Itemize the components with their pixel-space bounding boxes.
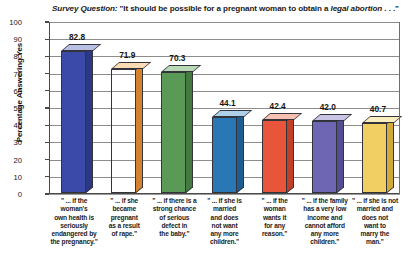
y-tick-label: 40 — [0, 121, 22, 130]
x-label-line: " ... if she is not — [350, 197, 400, 205]
bar-side-face — [86, 45, 93, 193]
x-label-line: reason." — [250, 230, 300, 238]
bar-top-face — [161, 65, 201, 72]
x-axis-category-label: " ... if there is astrong chanceof serio… — [149, 197, 199, 238]
x-axis-category-label: " ... if shebecamepregnantas a resultof … — [99, 197, 149, 238]
bar[interactable] — [312, 121, 337, 193]
bar-top-face — [61, 44, 101, 51]
x-label-line: of rape." — [99, 230, 149, 238]
x-label-line: " ... if there is a — [149, 197, 199, 205]
y-tick-label: 20 — [0, 155, 22, 164]
y-tick-label: 50 — [0, 104, 22, 113]
bar-side-face — [287, 114, 294, 193]
y-tick-label: 90 — [0, 35, 22, 44]
x-label-line: " ... if she is — [199, 197, 249, 205]
plot-area: 82.871.970.344.142.442.040.7 — [49, 22, 400, 194]
bar-front-face — [312, 121, 337, 193]
x-label-line: man." — [350, 238, 400, 246]
bar[interactable] — [262, 120, 287, 193]
y-tick-label: 70 — [0, 69, 22, 78]
bar-front-face — [111, 69, 136, 193]
bar-value-label: 71.9 — [104, 50, 150, 60]
bar-side-face — [237, 111, 244, 193]
bar[interactable] — [362, 123, 387, 193]
chart-title-plain-1: "It should be possible for a pregnant wo… — [117, 4, 330, 13]
bar-value-label: 82.8 — [54, 32, 100, 42]
y-tick-label: 60 — [0, 86, 22, 95]
gridline — [50, 39, 400, 40]
bar-top-face — [262, 113, 302, 120]
x-label-line: children." — [300, 238, 350, 246]
x-label-line: endangered by — [49, 230, 99, 238]
survey-bar-chart: Survey Question: "It should be possible … — [0, 0, 408, 268]
bar-front-face — [212, 117, 237, 193]
x-label-line: " ... if she — [99, 197, 149, 205]
y-tick-label: 0 — [0, 190, 22, 199]
bar-front-face — [161, 72, 186, 193]
x-label-line: want to — [350, 222, 400, 230]
x-label-line: defect in — [149, 222, 199, 230]
plot-right-edge — [399, 22, 400, 194]
x-label-line: for any — [250, 222, 300, 230]
gridline — [50, 56, 400, 57]
chart-title-lead: Survey Question: — [52, 4, 117, 13]
x-label-line: woman — [250, 205, 300, 213]
bar-value-label: 44.1 — [205, 98, 251, 108]
x-axis-labels: " ... if thewoman'sown health isseriousl… — [49, 197, 400, 267]
bar-top-face — [362, 116, 402, 123]
bar-side-face — [186, 66, 193, 193]
x-label-line: as a result — [99, 222, 149, 230]
x-label-line: any more — [300, 230, 350, 238]
x-label-line: does not — [350, 214, 400, 222]
x-label-line: the baby." — [149, 230, 199, 238]
bar[interactable] — [212, 117, 237, 193]
x-label-line: " ... if the — [49, 197, 99, 205]
x-label-line: marry the — [350, 230, 400, 238]
bar-top-face — [111, 62, 151, 69]
x-label-line: of serious — [149, 214, 199, 222]
x-label-line: pregnant — [99, 214, 149, 222]
plot-floor-line — [49, 194, 400, 195]
bar[interactable] — [61, 51, 86, 193]
gridline — [50, 74, 400, 75]
x-label-line: " ... if the family — [300, 197, 350, 205]
x-label-line: cannot afford — [300, 222, 350, 230]
y-axis-ticks: 1009080706050403020100 — [0, 0, 44, 268]
y-tick-label: 30 — [0, 138, 22, 147]
x-label-line: became — [99, 205, 149, 213]
x-label-line: married — [199, 205, 249, 213]
bar[interactable] — [161, 72, 186, 193]
x-label-line: and does — [199, 214, 249, 222]
bar-value-label: 40.7 — [355, 104, 401, 114]
gridline — [50, 22, 400, 23]
x-label-line: children." — [199, 238, 249, 246]
x-label-line: " ... if the — [250, 197, 300, 205]
x-axis-category-label: " ... if thewomanwants itfor anyreason." — [250, 197, 300, 238]
x-label-line: seriously — [49, 222, 99, 230]
x-label-line: married and — [350, 205, 400, 213]
bar[interactable] — [111, 69, 136, 193]
bar-value-label: 42.0 — [305, 102, 351, 112]
bar-side-face — [387, 117, 394, 193]
bar-top-face — [212, 110, 252, 117]
y-tick-label: 80 — [0, 52, 22, 61]
x-label-line: own health is — [49, 214, 99, 222]
chart-title-plain-2: . . ." — [382, 4, 399, 13]
x-label-line: wants it — [250, 214, 300, 222]
x-label-line: any more — [199, 230, 249, 238]
x-label-line: not want — [199, 222, 249, 230]
x-label-line: the pregnancy." — [49, 238, 99, 246]
bar-top-face — [312, 114, 352, 121]
bar-front-face — [61, 51, 86, 193]
x-label-line: woman's — [49, 205, 99, 213]
bar-front-face — [262, 120, 287, 193]
y-tick-label: 10 — [0, 172, 22, 181]
x-axis-category-label: " ... if she ismarriedand doesnot wantan… — [199, 197, 249, 247]
bar-front-face — [362, 123, 387, 193]
chart-title-emphasis: legal abortion — [331, 4, 383, 13]
bar-value-label: 42.4 — [255, 101, 301, 111]
bar-side-face — [337, 115, 344, 193]
x-axis-category-label: " ... if she is notmarried anddoes notwa… — [350, 197, 400, 247]
x-axis-category-label: " ... if thewoman'sown health isseriousl… — [49, 197, 99, 247]
y-tick-label: 100 — [0, 18, 22, 27]
